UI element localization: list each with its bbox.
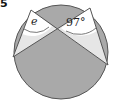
angle-e-label: e [31,15,38,28]
angle-97-label: 97° [66,16,86,29]
circle-diagram: e 97° [0,0,115,100]
